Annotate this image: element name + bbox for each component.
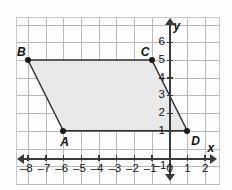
vertex-dot-d	[184, 128, 190, 134]
x-axis-tick	[187, 155, 189, 161]
vertex-label-d: D	[191, 134, 200, 148]
cropped-header-text	[18, 0, 113, 7]
x-tick-label: –3	[108, 163, 121, 174]
figure-canvas: –8–7–6–5–4–3–2–1012 654321–1 ABCD x y	[0, 0, 232, 190]
y-axis-tick	[167, 42, 173, 44]
vertex-label-c: C	[141, 45, 150, 59]
vertex-dot-c	[149, 57, 155, 63]
x-tick-label: 2	[202, 163, 208, 174]
x-axis-tick	[81, 155, 83, 161]
x-tick-label: –2	[126, 163, 139, 174]
x-tick-label: –8	[20, 163, 33, 174]
x-axis-tick	[27, 155, 29, 161]
vertex-label-b: B	[17, 45, 26, 59]
parallelogram-shape	[17, 18, 221, 186]
y-tick-label: 3	[159, 89, 165, 100]
x-axis-tick	[98, 155, 100, 161]
y-axis-tick	[167, 60, 173, 62]
x-axis-arrow-right	[210, 154, 217, 164]
y-axis-arrow-down	[165, 174, 175, 181]
x-axis-tick	[63, 155, 65, 161]
x-axis-tick	[134, 155, 136, 161]
y-tick-label: 4	[159, 72, 165, 83]
y-axis-tick	[167, 113, 173, 115]
y-axis-tick	[167, 95, 173, 97]
x-tick-label: –5	[73, 163, 86, 174]
y-tick-label: 1	[159, 125, 165, 136]
x-tick-label: 0	[167, 163, 173, 174]
y-axis-tick	[167, 77, 173, 79]
coordinate-plane: –8–7–6–5–4–3–2–1012 654321–1 ABCD x y	[16, 17, 220, 185]
y-axis-tick	[167, 130, 173, 132]
y-tick-label: 6	[159, 36, 165, 47]
x-tick-label: 1	[184, 163, 190, 174]
y-axis-name: y	[174, 19, 181, 33]
x-axis-name: x	[208, 141, 215, 155]
x-axis-tick	[45, 155, 47, 161]
x-axis-tick	[204, 155, 206, 161]
vertex-label-a: A	[60, 135, 69, 149]
x-tick-label: –6	[55, 163, 68, 174]
y-tick-label: 2	[159, 107, 165, 118]
y-tick-label: 5	[159, 54, 165, 65]
x-axis-tick	[116, 155, 118, 161]
x-tick-label: –7	[38, 163, 51, 174]
x-tick-label: –4	[91, 163, 104, 174]
y-axis	[169, 24, 171, 178]
y-tick-label: –1	[154, 160, 167, 171]
